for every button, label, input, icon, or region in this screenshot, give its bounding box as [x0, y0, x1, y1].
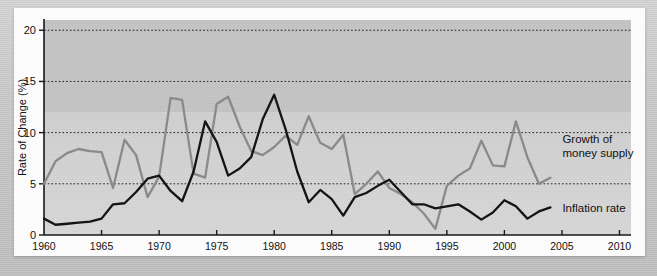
x-tick-label-1965: 1965	[90, 240, 114, 252]
x-tick-label-1975: 1975	[205, 240, 229, 252]
y-axis-title: Rate of Change (%)	[16, 79, 28, 176]
x-tick-label-1985: 1985	[320, 240, 344, 252]
x-tick-label-2010: 2010	[608, 240, 632, 252]
x-tick-label-2005: 2005	[550, 240, 574, 252]
x-tick-label-1995: 1995	[435, 240, 459, 252]
series-line-money-supply	[44, 97, 550, 229]
x-tick-label-1970: 1970	[147, 240, 171, 252]
x-tick-label-1980: 1980	[263, 240, 287, 252]
line-chart: 0510152019601965197019751980198519901995…	[14, 8, 645, 256]
x-tick-label-2000: 2000	[493, 240, 517, 252]
series-label-money-supply: Growth ofmoney supply	[562, 133, 633, 159]
series-label-inflation: Inflation rate	[562, 202, 625, 214]
chart-svg: 0510152019601965197019751980198519901995…	[14, 8, 645, 256]
y-tick-label-20: 20	[24, 24, 36, 36]
x-tick-label-1960: 1960	[32, 240, 56, 252]
x-tick-label-1990: 1990	[378, 240, 402, 252]
y-tick-label-5: 5	[30, 178, 36, 190]
